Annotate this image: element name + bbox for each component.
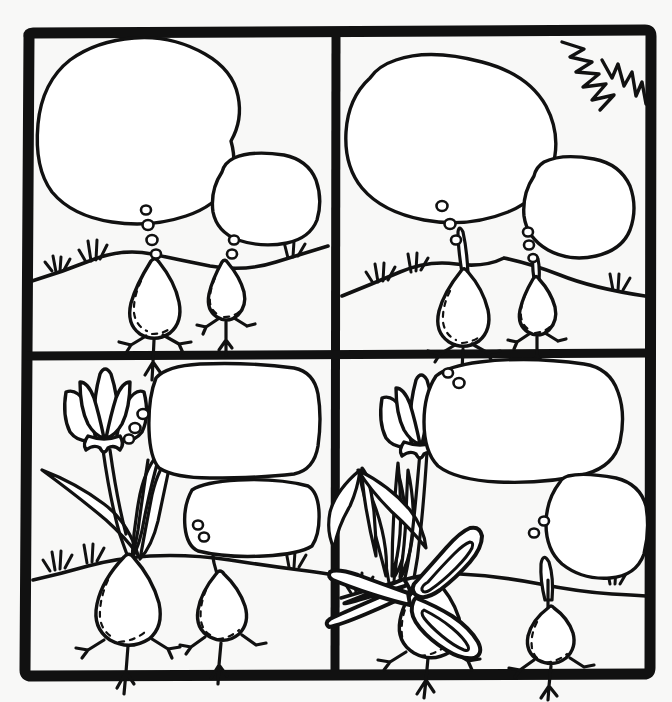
scissors-pivot [408, 588, 415, 595]
thought-bubble-small[interactable] [546, 474, 648, 578]
thought-bubble-large[interactable] [149, 364, 320, 479]
worksheet-sheet [0, 0, 672, 702]
thought-bubble-large[interactable] [424, 359, 623, 482]
divider-horizontal [27, 353, 649, 356]
thought-bubble-small[interactable] [185, 480, 319, 557]
thought-bubble-small[interactable] [212, 153, 319, 245]
comic-strip-canvas [0, 0, 672, 702]
thought-bubble-large[interactable] [37, 38, 239, 224]
thought-bubble-small[interactable] [524, 157, 634, 258]
